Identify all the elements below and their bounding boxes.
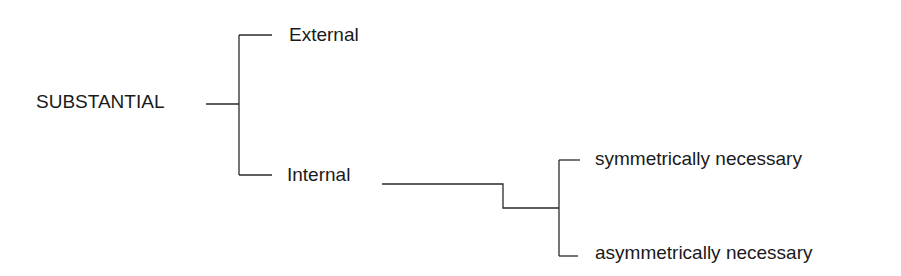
connector-lines	[0, 0, 901, 276]
node-symmetrically-necessary: symmetrically necessary	[595, 149, 802, 168]
node-external: External	[289, 25, 359, 44]
node-asymmetrically-necessary: asymmetrically necessary	[595, 243, 813, 262]
node-internal: Internal	[287, 165, 350, 184]
node-substantial: SUBSTANTIAL	[36, 92, 164, 111]
internal-connector	[382, 184, 559, 208]
